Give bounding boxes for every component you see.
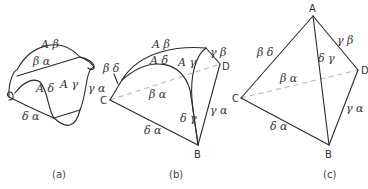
vertex-c-b: B — [325, 149, 332, 160]
vertex-b-b: B — [194, 149, 201, 160]
caption-b: (b) — [169, 169, 183, 180]
label-b-gamma-alpha: γ α — [210, 104, 228, 117]
figure-canvas: A β β α A δ A γ γ α δ α (a) A β A δ A γ … — [0, 0, 368, 189]
vertex-c-d: D — [361, 65, 368, 76]
label-b-delta-gamma: δ γ — [180, 112, 197, 125]
caption-c: (c) — [323, 169, 336, 180]
panel-a: A β β α A δ A γ γ α δ α (a) — [8, 38, 107, 180]
caption-a: (a) — [52, 169, 66, 180]
panel-a-lower-chord — [54, 110, 80, 118]
panel-c: β δ γ β δ γ β α γ α δ α A C D B (c) — [232, 3, 368, 180]
label-c-gamma-beta: γ β — [337, 34, 353, 47]
vertex-c-a: A — [309, 3, 316, 14]
label-b-a-delta: A δ — [149, 54, 168, 67]
label-c-delta-alpha: δ α — [270, 120, 288, 133]
vertex-b-d: D — [222, 61, 230, 72]
label-b-beta-alpha: β α — [148, 88, 167, 101]
vertex-b-c: C — [100, 95, 107, 106]
label-beta-alpha: β α — [32, 55, 51, 68]
label-b-a-beta: A β — [151, 38, 170, 51]
label-b-a-gamma: A γ — [177, 56, 196, 69]
label-c-beta-delta: β δ — [256, 46, 274, 59]
panel-c-hidden-edge-cd — [241, 70, 358, 98]
label-a-beta: A β — [40, 38, 59, 51]
label-a-gamma: A γ — [59, 78, 78, 91]
panel-c-edge-ac — [241, 16, 313, 98]
label-b-gamma-beta: γ β — [210, 46, 226, 59]
panel-b: A β A δ A γ γ β β δ β α δ γ γ α δ α C D … — [100, 38, 230, 180]
label-a-delta: A δ — [35, 82, 54, 95]
label-b-delta-alpha: δ α — [144, 124, 162, 137]
label-delta-alpha: δ α — [22, 110, 40, 123]
label-c-beta-alpha: β α — [279, 72, 298, 85]
label-c-gamma-alpha: γ α — [346, 102, 364, 115]
panel-a-left-curl — [8, 92, 14, 100]
vertex-c-c: C — [232, 93, 239, 104]
label-b-beta-delta: β δ — [102, 62, 120, 75]
label-c-delta-gamma: δ γ — [318, 52, 335, 65]
label-gamma-alpha: γ α — [88, 82, 106, 95]
panel-b-label-pointer — [114, 74, 118, 84]
